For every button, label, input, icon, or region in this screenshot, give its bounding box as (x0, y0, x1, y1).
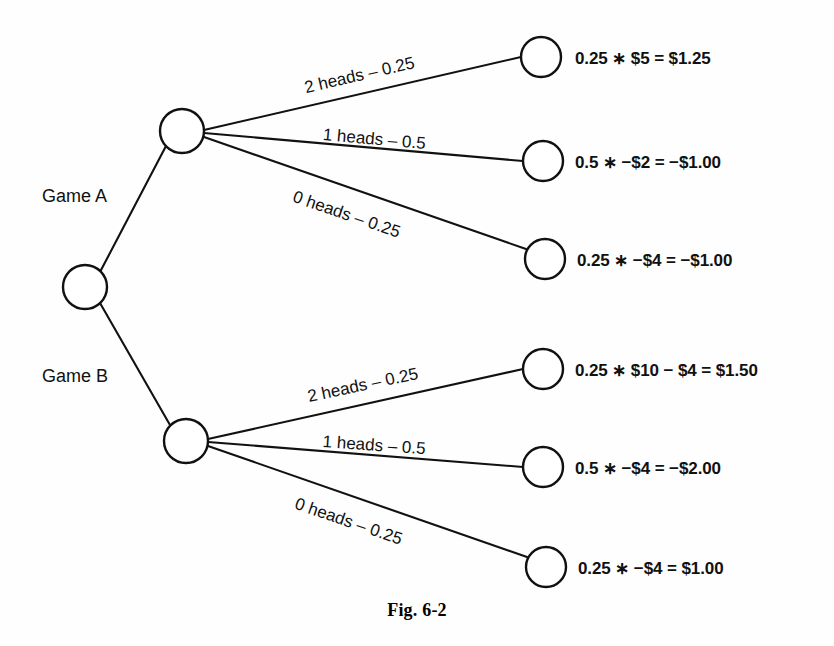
terminal-node-a-2[interactable] (521, 37, 561, 77)
payoff-b-0-heads: 0.25 ∗ −$4 = $1.00 (578, 558, 724, 579)
figure-caption: Fig. 6-2 (0, 600, 834, 621)
terminal-node-a-0[interactable] (525, 239, 565, 279)
chance-node-game-b[interactable] (164, 419, 208, 463)
payoff-b-2-heads: 0.25 ∗ $10 − $4 = $1.50 (575, 360, 758, 381)
terminal-node-a-1[interactable] (523, 141, 563, 181)
payoff-b-1-heads: 0.5 ∗ −$4 = −$2.00 (575, 458, 721, 479)
payoff-a-2-heads: 0.25 ∗ $5 = $1.25 (575, 48, 711, 69)
decision-tree-figure: Game A Game B 2 heads – 0.25 1 heads – 0… (0, 0, 834, 646)
payoff-a-0-heads: 0.25 ∗ −$4 = −$1.00 (577, 250, 732, 271)
decision-label-game-b: Game B (42, 366, 108, 387)
tree-graphic (0, 0, 834, 646)
terminal-node-b-2[interactable] (523, 349, 563, 389)
payoff-a-1-heads: 0.5 ∗ −$2 = −$1.00 (575, 152, 721, 173)
decision-label-game-a: Game A (42, 186, 107, 207)
terminal-node-b-0[interactable] (526, 547, 566, 587)
edge-root-to-game-a (100, 146, 166, 272)
edge-root-to-game-b (100, 303, 170, 425)
terminal-node-b-1[interactable] (523, 447, 563, 487)
chance-node-game-a[interactable] (160, 109, 204, 153)
root-decision-node[interactable] (63, 265, 107, 309)
edge-a-0-heads (204, 137, 526, 249)
